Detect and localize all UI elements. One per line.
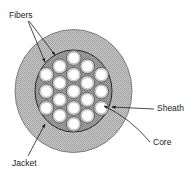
fiber	[66, 117, 81, 132]
fiber	[94, 84, 109, 99]
fiber	[39, 84, 54, 99]
fiber-core	[41, 86, 53, 98]
fiber-core	[96, 86, 108, 98]
fiber	[66, 67, 81, 82]
core-label: Core	[153, 138, 171, 147]
jacket-label: Jacket	[12, 159, 37, 168]
fiber	[52, 108, 67, 123]
fiber-core	[41, 102, 53, 114]
fiber	[80, 108, 95, 123]
fiber	[80, 59, 95, 74]
fiber-core	[82, 94, 94, 106]
fiber	[66, 84, 81, 99]
fiber-core	[82, 61, 94, 73]
fiber-core	[54, 94, 66, 106]
fiber-core	[54, 77, 66, 89]
fiber-core	[68, 86, 80, 98]
fiber-core	[68, 102, 80, 114]
fiber-core	[68, 52, 80, 64]
fiber-core	[68, 69, 80, 81]
fiber	[52, 92, 67, 107]
fiber	[94, 67, 109, 82]
fiber-core	[96, 102, 108, 114]
fiber	[39, 101, 54, 116]
fiber	[66, 101, 81, 116]
fiber	[39, 67, 54, 82]
fiber	[52, 59, 67, 74]
fibers-label: Fibers	[9, 11, 33, 20]
sheath-label: Sheath	[157, 104, 184, 113]
fiber	[66, 51, 81, 66]
fiber-core	[41, 69, 53, 81]
fiber-core	[68, 118, 80, 130]
fiber	[94, 101, 109, 116]
cable-cross-section-diagram	[0, 0, 195, 178]
fiber-core	[96, 69, 108, 81]
fiber	[80, 76, 95, 91]
fiber-core	[54, 110, 66, 122]
fiber-core	[54, 61, 66, 73]
fiber-core	[82, 77, 94, 89]
fiber	[52, 76, 67, 91]
fiber	[80, 92, 95, 107]
fiber-core	[82, 110, 94, 122]
